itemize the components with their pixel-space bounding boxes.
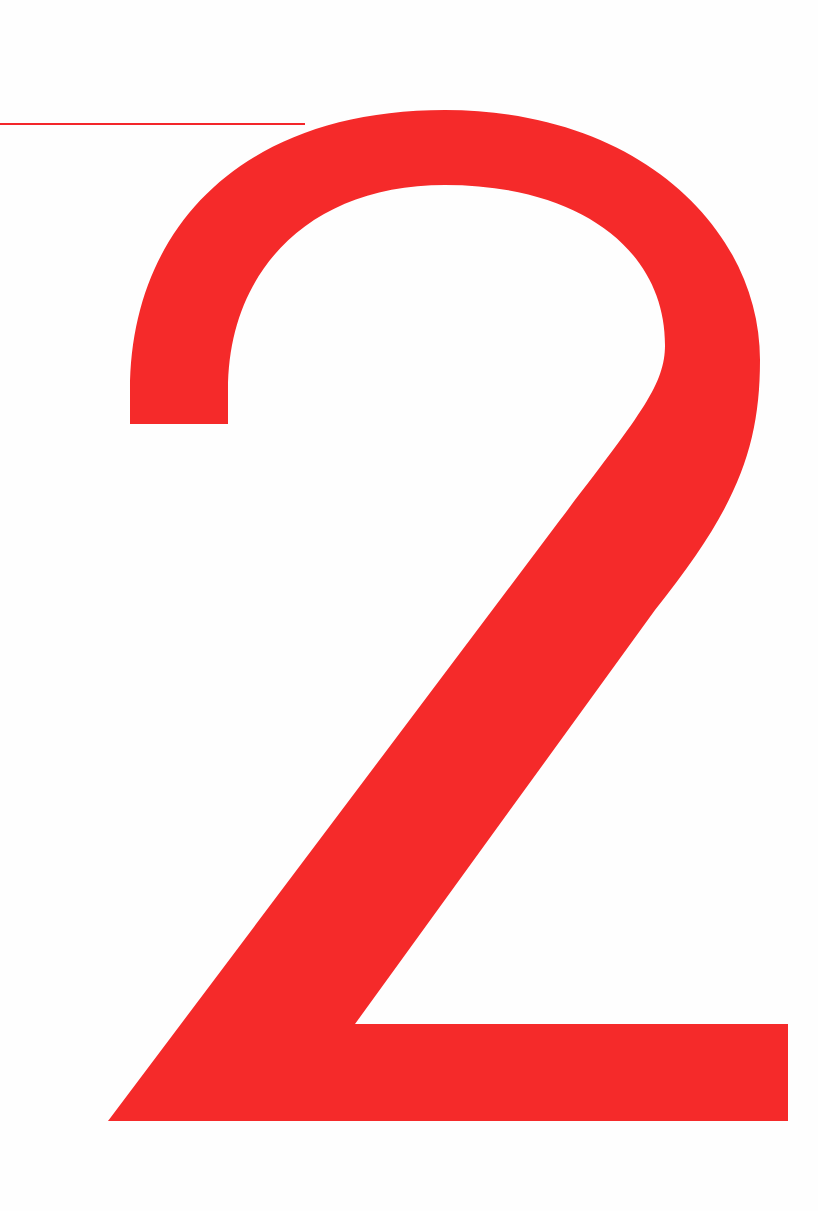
large-numeral-graphic [0,0,818,1211]
document-page: 2 [0,0,818,1211]
numeral-two-shape [108,110,788,1121]
